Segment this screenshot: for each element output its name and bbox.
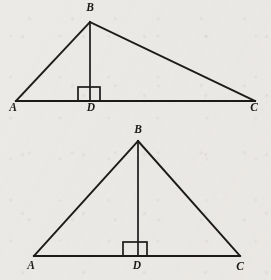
geometry-figure: B A D C B A D C	[0, 0, 271, 280]
vertex-label-d-1: D	[86, 101, 96, 113]
side-line-ab-1	[16, 22, 90, 101]
vertex-label-c-2: C	[236, 260, 244, 272]
right-angle-marker-2	[123, 242, 147, 256]
side-line-bc-2	[138, 141, 240, 256]
diagram-scalene-triangle: B A D C	[8, 1, 258, 113]
vertex-label-c-1: C	[250, 101, 258, 113]
vertex-label-b-2: B	[133, 123, 142, 135]
vertex-label-b-1: B	[85, 1, 94, 13]
vertex-label-d-2: D	[132, 259, 142, 271]
diagram-isosceles-triangle: B A D C	[26, 123, 244, 272]
side-line-bc-1	[90, 22, 255, 101]
side-line-ab-2	[34, 141, 138, 256]
right-angle-marker-1	[78, 87, 100, 101]
vertex-label-a-1: A	[8, 101, 17, 113]
figure-sheet: B A D C B A D C	[0, 0, 271, 280]
vertex-label-a-2: A	[26, 259, 35, 271]
